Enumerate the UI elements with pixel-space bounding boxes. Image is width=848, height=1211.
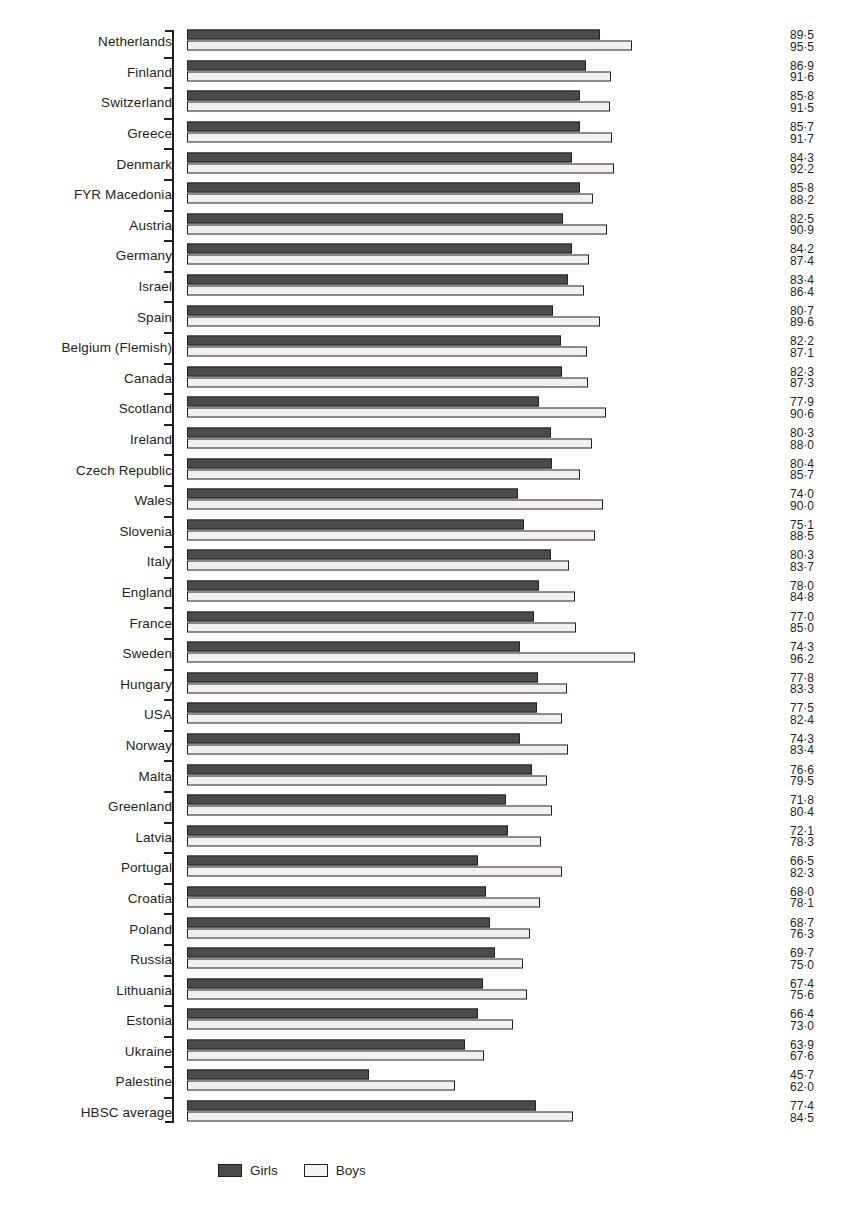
value-labels: 69·775·0 [790, 948, 846, 971]
bar-girls [187, 642, 520, 652]
category-label: Ukraine [125, 1043, 172, 1058]
category-label: Israel [138, 279, 172, 294]
value-boys: 87·3 [790, 378, 846, 390]
category-label: Belgium (Flemish) [62, 340, 172, 355]
bar-boys [187, 316, 600, 326]
axis-tick [164, 454, 173, 456]
value-labels: 66·473·0 [790, 1009, 846, 1032]
category-label: Italy [147, 554, 172, 569]
bar-girls [187, 183, 580, 193]
bar-girls [187, 1039, 465, 1049]
bar-row: Netherlands89·595·5 [0, 26, 848, 57]
value-labels: 77·883·3 [790, 672, 846, 695]
value-boys: 91·7 [790, 133, 846, 145]
axis-tick [164, 760, 173, 762]
value-boys: 87·4 [790, 255, 846, 267]
value-boys: 88·5 [790, 531, 846, 543]
bar-girls [187, 336, 561, 346]
bar-girls [187, 397, 539, 407]
value-labels: 82·287·1 [790, 336, 846, 359]
axis-tick [164, 1036, 173, 1038]
value-boys: 73·0 [790, 1020, 846, 1032]
axis-tick [164, 516, 173, 518]
category-label: Hungary [120, 676, 172, 691]
axis-tick [164, 301, 173, 303]
bar-row: Malta76·679·5 [0, 760, 848, 791]
axis-tick [164, 791, 173, 793]
category-label: Netherlands [98, 34, 172, 49]
bar-boys [187, 683, 567, 693]
bar-boys [187, 377, 588, 387]
legend-swatch-boys [304, 1164, 328, 1177]
value-boys: 96·2 [790, 653, 846, 665]
axis-tick [164, 87, 173, 89]
value-boys: 90·6 [790, 408, 846, 420]
value-boys: 86·4 [790, 286, 846, 298]
value-boys: 82·3 [790, 867, 846, 879]
category-label: Norway [126, 737, 172, 752]
bar-boys [187, 286, 584, 296]
value-boys: 78·3 [790, 837, 846, 849]
bar-boys [187, 744, 568, 754]
chart-legend: Girls Boys [218, 1163, 366, 1178]
axis-tick [164, 546, 173, 548]
value-boys: 84·5 [790, 1112, 846, 1124]
value-labels: 72·178·3 [790, 825, 846, 848]
axis-tick [164, 118, 173, 120]
value-labels: 89·595·5 [790, 30, 846, 53]
category-label: Switzerland [101, 95, 172, 110]
value-boys: 88·0 [790, 439, 846, 451]
category-label: Greenland [108, 799, 172, 814]
category-label: Slovenia [119, 523, 172, 538]
bar-girls [187, 733, 520, 743]
value-labels: 80·383·7 [790, 550, 846, 573]
legend-item-girls: Girls [218, 1163, 278, 1178]
value-labels: 86·991·6 [790, 60, 846, 83]
value-boys: 90·0 [790, 500, 846, 512]
bar-girls [187, 580, 539, 590]
bar-row: Italy80·383·7 [0, 546, 848, 577]
category-label: Poland [129, 921, 172, 936]
axis-tick [164, 1005, 173, 1007]
value-boys: 91·5 [790, 102, 846, 114]
axis-tick [164, 240, 173, 242]
axis-tick [164, 638, 173, 640]
bar-boys [187, 133, 612, 143]
category-label: Lithuania [116, 982, 172, 997]
bar-boys [187, 714, 562, 724]
bar-row: Denmark84·392·2 [0, 148, 848, 179]
bar-row: Greenland71·880·4 [0, 791, 848, 822]
bar-boys [187, 347, 587, 357]
value-boys: 87·1 [790, 347, 846, 359]
category-label: England [122, 584, 172, 599]
category-label: FYR Macedonia [74, 187, 172, 202]
bar-boys [187, 1020, 513, 1030]
bar-row: Wales74·090·0 [0, 485, 848, 516]
bar-girls [187, 825, 508, 835]
bar-girls [187, 978, 483, 988]
bar-boys [187, 1050, 484, 1060]
value-boys: 92·2 [790, 164, 846, 176]
value-boys: 83·7 [790, 561, 846, 573]
category-label: Czech Republic [76, 462, 172, 477]
axis-tick [164, 730, 173, 732]
axis-tick [164, 179, 173, 181]
bar-girls [187, 305, 553, 315]
bar-row: France77·085·0 [0, 607, 848, 638]
value-labels: 78·084·8 [790, 580, 846, 603]
category-label: Scotland [119, 401, 172, 416]
value-labels: 75·188·5 [790, 519, 846, 542]
bar-girls [187, 764, 532, 774]
bar-boys [187, 591, 575, 601]
bar-boys [187, 255, 589, 265]
category-label: HBSC average [81, 1105, 172, 1120]
bar-boys [187, 959, 523, 969]
bar-girls [187, 30, 600, 40]
value-boys: 85·7 [790, 470, 846, 482]
bar-boys [187, 41, 632, 51]
value-labels: 80·388·0 [790, 428, 846, 451]
bar-girls [187, 152, 572, 162]
axis-tick [164, 271, 173, 273]
value-labels: 45·762·0 [790, 1070, 846, 1093]
value-labels: 68·078·1 [790, 886, 846, 909]
